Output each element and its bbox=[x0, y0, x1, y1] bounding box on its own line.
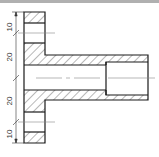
dim-label-bottom: 10 bbox=[5, 129, 14, 138]
dimension-labels: 10 20 20 10 bbox=[5, 22, 14, 138]
dim-label-lower-mid: 20 bbox=[5, 96, 14, 105]
dim-label-top: 10 bbox=[5, 22, 14, 31]
hatched-regions bbox=[24, 12, 148, 143]
dim-label-upper-mid: 20 bbox=[5, 52, 14, 61]
section-drawing: 10 20 20 10 bbox=[0, 0, 159, 157]
part-outline bbox=[24, 12, 148, 143]
